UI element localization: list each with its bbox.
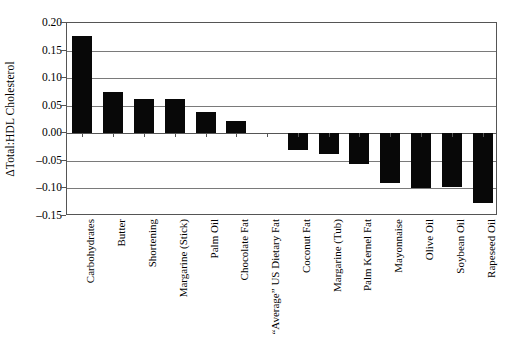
y-axis-tick-mark bbox=[60, 105, 66, 106]
x-axis-tick-mark bbox=[421, 133, 422, 137]
y-axis-tick-mark bbox=[60, 77, 66, 78]
x-axis-category-label: Soybean Oil bbox=[455, 164, 466, 219]
y-axis-tick-label: 0.00 bbox=[42, 126, 62, 138]
x-axis-tick-mark bbox=[329, 133, 330, 137]
bar bbox=[72, 36, 92, 134]
y-axis-tick-mark bbox=[60, 160, 66, 161]
x-axis-category-label: Palm Kernel Fat bbox=[362, 147, 373, 219]
x-axis-category-label: Mayonnaise bbox=[393, 165, 404, 219]
y-axis-tick-mark bbox=[60, 22, 66, 23]
x-axis-category-label: Chocolate Fat bbox=[239, 158, 250, 219]
x-axis-tick-mark bbox=[82, 133, 83, 137]
y-axis-tick-label: –0.15 bbox=[36, 209, 62, 221]
y-axis-title: ΔTotal:HDL Cholesterol bbox=[1, 22, 19, 216]
x-axis-tick-mark bbox=[144, 133, 145, 137]
x-axis-category-label: Butter bbox=[116, 192, 127, 220]
x-axis-tick-mark bbox=[175, 133, 176, 137]
x-axis-category-label: Palm Oil bbox=[209, 180, 220, 219]
x-axis-tick-mark bbox=[113, 133, 114, 137]
bar bbox=[226, 121, 246, 133]
x-axis-category-label: Margarine (Tub) bbox=[332, 146, 343, 219]
y-axis-tick-label: 0.20 bbox=[42, 16, 62, 28]
bar bbox=[103, 92, 123, 133]
x-axis-category-label: Margarine (Stick) bbox=[178, 141, 189, 219]
bar bbox=[165, 99, 185, 133]
y-axis-tick-label: 0.10 bbox=[42, 71, 62, 83]
y-axis-tick-label: 0.15 bbox=[42, 44, 62, 56]
y-axis-tick-mark bbox=[60, 132, 66, 133]
y-axis-tick-label: –0.10 bbox=[36, 181, 62, 193]
y-axis-tick-labels: 0.200.150.100.050.00–0.05–0.10–0.15 bbox=[26, 0, 62, 360]
x-axis-category-label: Coconut Fat bbox=[301, 165, 312, 219]
bar bbox=[196, 112, 216, 133]
x-axis-category-label: Olive Oil bbox=[424, 178, 435, 219]
bar-chart-figure: ΔTotal:HDL Cholesterol 0.200.150.100.050… bbox=[0, 0, 514, 360]
x-axis-category-label: Shortening bbox=[147, 171, 158, 219]
y-axis-tick-mark bbox=[60, 187, 66, 188]
x-axis-category-labels: CarbohydratesButterShorteningMargarine (… bbox=[66, 216, 497, 360]
bar bbox=[134, 99, 154, 134]
x-axis-tick-mark bbox=[390, 133, 391, 137]
x-axis-tick-mark bbox=[267, 133, 268, 137]
y-axis-tick-label: 0.05 bbox=[42, 99, 62, 111]
y-axis-tick-label: –0.05 bbox=[36, 154, 62, 166]
x-axis-tick-mark bbox=[206, 133, 207, 137]
x-axis-category-label: Carbohydrates bbox=[85, 155, 96, 219]
x-axis-tick-mark bbox=[236, 133, 237, 137]
x-axis-tick-mark bbox=[359, 133, 360, 137]
x-axis-tick-mark bbox=[298, 133, 299, 137]
x-axis-tick-mark bbox=[452, 133, 453, 137]
x-axis-tick-mark bbox=[483, 133, 484, 137]
x-axis-category-label: “Average” US Dietary Fat bbox=[270, 103, 281, 219]
x-axis-category-label: Rapeseed Oil bbox=[486, 160, 497, 219]
y-axis-tick-mark bbox=[60, 50, 66, 51]
